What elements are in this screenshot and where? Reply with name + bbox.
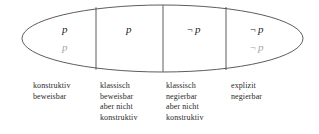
ellipse-diagram-svg (0, 0, 319, 134)
cell-4-secondary-negation-icon: ¬ (250, 42, 258, 53)
caption-column-2: klassisch beweisbar aber nicht konstrukt… (100, 81, 138, 123)
caption-2-line-1: klassisch (100, 81, 138, 92)
caption-3-line-4: konstruktiv (166, 113, 204, 124)
cell-3-primary-formula: ¬p (165, 24, 223, 35)
caption-4-line-2: negierbar (231, 92, 262, 103)
cell-4-primary-formula: ¬p (231, 24, 283, 35)
cell-4-primary-variable: p (258, 23, 264, 35)
cell-4-negation-icon: ¬ (250, 24, 258, 35)
cell-1-secondary-formula: p (36, 42, 94, 53)
caption-column-1: konstruktiv beweisbar (33, 81, 71, 102)
caption-2-line-4: konstruktiv (100, 113, 138, 124)
caption-3-line-2: negierbar (166, 92, 204, 103)
caption-3-line-3: aber nicht (166, 102, 204, 113)
caption-2-line-3: aber nicht (100, 102, 138, 113)
outer-ellipse (22, 5, 303, 72)
caption-3-line-1: klassisch (166, 81, 204, 92)
cell-1-primary-formula: p (36, 24, 94, 35)
cell-2-primary-formula: p (100, 24, 158, 35)
cell-3-negation-icon: ¬ (187, 24, 195, 35)
caption-1-line-1: konstruktiv (33, 81, 71, 92)
caption-4-line-1: explizit (231, 81, 262, 92)
caption-column-4: explizit negierbar (231, 81, 262, 102)
cell-4-secondary-variable: p (258, 41, 264, 53)
caption-column-3: klassisch negierbar aber nicht konstrukt… (166, 81, 204, 123)
cell-3-primary-variable: p (195, 23, 201, 35)
cell-4-secondary-formula: ¬p (231, 42, 283, 53)
caption-2-line-2: beweisbar (100, 92, 138, 103)
cell-1-primary-variable: p (62, 23, 68, 35)
caption-1-line-2: beweisbar (33, 92, 71, 103)
logic-venn-figure: p p p ¬p ¬p ¬p konstruktiv beweisbar kla… (0, 0, 319, 134)
cell-1-secondary-variable: p (62, 41, 68, 53)
cell-2-primary-variable: p (126, 23, 132, 35)
